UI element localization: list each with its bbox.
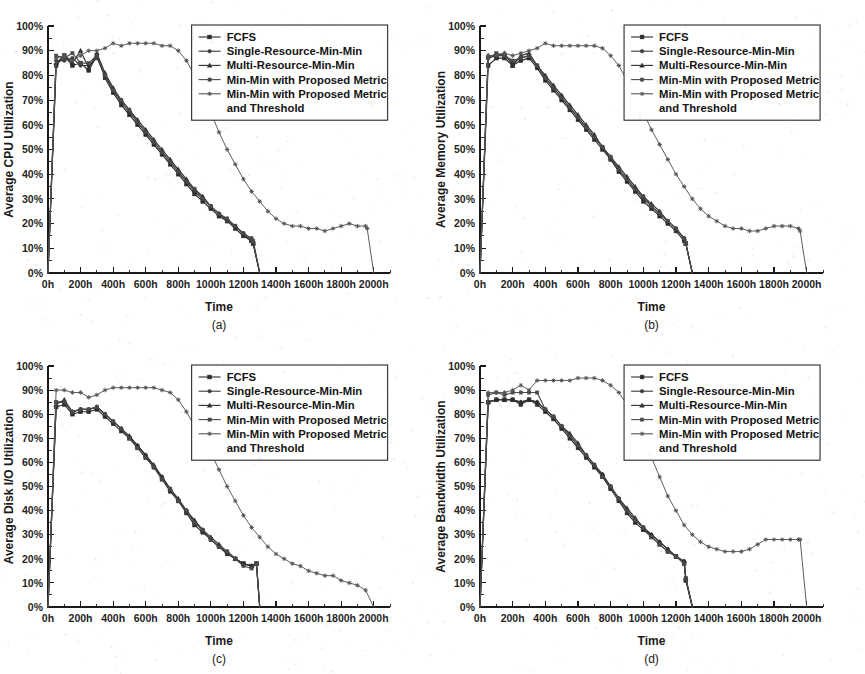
x-tick-label: 1200h [229, 278, 259, 290]
legend-label: Min-Min with Proposed Metric [227, 74, 387, 86]
legend-label: Min-Min with Proposed Metric [659, 74, 819, 86]
y-tick-label: 70% [454, 432, 476, 444]
x-tick-label: 1600h [726, 278, 756, 290]
legend-label: and Threshold [227, 442, 305, 454]
x-tick-label: 1800h [759, 612, 789, 624]
y-tick-label: 20% [454, 217, 476, 229]
x-tick-label: 200h [69, 278, 93, 290]
y-tick-label: 60% [454, 456, 476, 468]
x-tick-label: 400h [533, 278, 557, 290]
x-tick-label: 1200h [229, 612, 259, 624]
panel-caption: (b) [644, 318, 659, 332]
y-tick-label: 20% [454, 553, 476, 565]
x-tick-label: 0h [474, 278, 486, 290]
x-tick-label: 2000h [792, 278, 822, 290]
legend-label: Min-Min with Proposed Metric [227, 88, 387, 100]
x-tick-label: 600h [134, 612, 158, 624]
x-axis: 0h200h400h600h800h1000h1200h1400h1600h18… [474, 601, 823, 624]
x-axis-title: Time [205, 634, 233, 648]
x-tick-label: 1200h [661, 278, 691, 290]
legend-label: Multi-Resource-Min-Min [227, 59, 355, 71]
y-tick-label: 80% [454, 408, 476, 420]
panel-caption: (c) [212, 652, 226, 666]
panel-d: 0h200h400h600h800h1000h1200h1400h1600h18… [432, 340, 865, 674]
y-tick-label: 90% [454, 384, 476, 396]
panel-caption: (d) [644, 652, 659, 666]
x-tick-label: 1600h [726, 612, 756, 624]
y-tick-label: 10% [454, 577, 476, 589]
x-tick-label: 800h [599, 278, 623, 290]
y-tick-label: 80% [22, 69, 44, 81]
x-tick-label: 1400h [694, 278, 724, 290]
panel-b: 0h200h400h600h800h1000h1200h1400h1600h18… [432, 0, 865, 340]
y-tick-label: 100% [16, 360, 44, 372]
x-tick-label: 1600h [294, 612, 324, 624]
legend-label: Min-Min with Proposed Metric [227, 428, 387, 440]
legend-label: Min-Min with Proposed Metric [659, 88, 819, 100]
x-tick-label: 800h [166, 278, 190, 290]
x-axis: 0h200h400h600h800h1000h1200h1400h1600h18… [42, 267, 390, 290]
x-tick-label: 0h [42, 612, 54, 624]
figure-grid: 0h200h400h600h800h1000h1200h1400h1600h18… [0, 0, 865, 674]
x-tick-label: 400h [101, 278, 125, 290]
y-tick-label: 40% [22, 168, 44, 180]
legend: FCFSSingle-Resource-Min-MinMulti-Resourc… [192, 25, 388, 120]
legend: FCFSSingle-Resource-Min-MinMulti-Resourc… [192, 365, 388, 460]
y-axis-title: Average Bandwidth Utilization [434, 400, 448, 572]
y-tick-label: 30% [22, 528, 44, 540]
y-tick-label: 50% [454, 143, 476, 155]
legend-label: Single-Resource-Min-Min [659, 385, 795, 397]
legend-label: and Threshold [227, 102, 305, 114]
y-tick-label: 40% [22, 504, 44, 516]
x-axis: 0h200h400h600h800h1000h1200h1400h1600h18… [474, 267, 823, 290]
x-axis: 0h200h400h600h800h1000h1200h1400h1600h18… [42, 601, 390, 624]
y-tick-label: 60% [454, 119, 476, 131]
y-tick-label: 100% [448, 360, 476, 372]
y-tick-label: 10% [454, 242, 476, 254]
x-tick-label: 600h [566, 278, 590, 290]
x-tick-label: 1400h [261, 278, 291, 290]
x-tick-label: 1200h [661, 612, 691, 624]
legend-label: FCFS [659, 31, 689, 43]
x-tick-label: 1800h [326, 612, 356, 624]
y-tick-label: 30% [454, 528, 476, 540]
y-axis-title: Average Memory Utilization [434, 71, 448, 228]
x-tick-label: 1600h [294, 278, 324, 290]
legend: FCFSSingle-Resource-Min-MinMulti-Resourc… [624, 365, 820, 460]
x-tick-label: 1000h [628, 278, 658, 290]
legend-label: Min-Min with Proposed Metric [659, 414, 819, 426]
y-tick-label: 0% [460, 601, 476, 613]
y-tick-label: 50% [22, 480, 44, 492]
x-tick-label: 200h [501, 278, 525, 290]
x-tick-label: 0h [474, 612, 486, 624]
y-tick-label: 90% [454, 44, 476, 56]
x-tick-label: 1800h [326, 278, 356, 290]
x-tick-label: 200h [69, 612, 93, 624]
legend-label: Min-Min with Proposed Metric [659, 428, 819, 440]
y-tick-label: 80% [454, 69, 476, 81]
x-tick-label: 800h [166, 612, 190, 624]
y-tick-label: 80% [22, 408, 44, 420]
panel-c: 0h200h400h600h800h1000h1200h1400h1600h18… [0, 340, 432, 674]
x-tick-label: 1400h [694, 612, 724, 624]
x-axis-title: Time [205, 300, 233, 314]
legend-label: FCFS [227, 371, 257, 383]
legend-label: Multi-Resource-Min-Min [227, 399, 355, 411]
y-tick-label: 10% [22, 577, 44, 589]
x-axis-title: Time [638, 634, 666, 648]
y-tick-label: 20% [22, 217, 44, 229]
y-tick-label: 40% [454, 168, 476, 180]
legend-label: Multi-Resource-Min-Min [659, 399, 787, 411]
y-tick-label: 70% [22, 432, 44, 444]
x-tick-label: 200h [501, 612, 525, 624]
x-tick-label: 1000h [628, 612, 658, 624]
legend-label: Single-Resource-Min-Min [227, 45, 363, 57]
legend-label: Multi-Resource-Min-Min [659, 59, 787, 71]
y-tick-label: 20% [22, 553, 44, 565]
y-tick-label: 100% [448, 20, 476, 32]
y-axis-title: Average CPU Utilization [2, 81, 16, 217]
x-tick-label: 2000h [359, 278, 389, 290]
legend: FCFSSingle-Resource-Min-MinMulti-Resourc… [624, 25, 820, 120]
y-tick-label: 90% [22, 44, 44, 56]
x-tick-label: 2000h [359, 612, 389, 624]
